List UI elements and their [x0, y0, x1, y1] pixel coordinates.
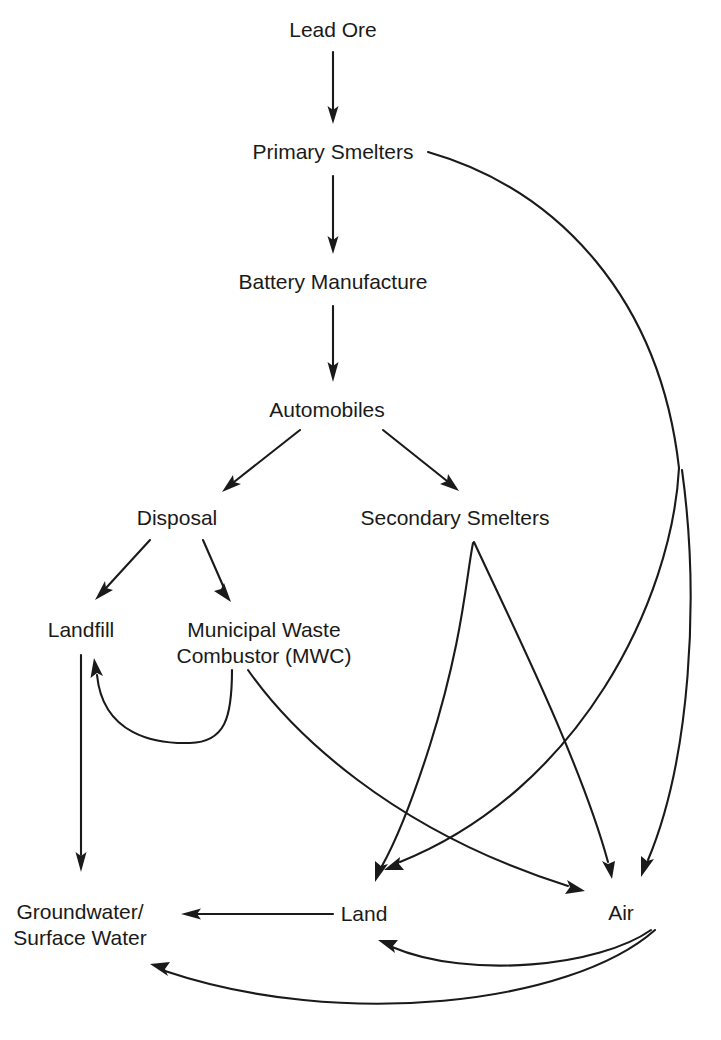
edge-air-to-groundwater: [150, 930, 655, 1004]
edge-battery-manufacture-to-automobiles: [328, 306, 339, 382]
edge-primary-smelters-to-battery-manufacture: [328, 176, 339, 254]
flow-diagram: Lead Ore Primary Smelters Battery Manufa…: [0, 0, 721, 1040]
node-lead-ore: Lead Ore: [289, 17, 377, 43]
node-groundwater-surface-water: Groundwater/ Surface Water: [13, 899, 146, 951]
node-battery-manufacture: Battery Manufacture: [238, 269, 427, 295]
edge-mwc-to-air: [248, 670, 585, 894]
edge-landfill-to-groundwater: [76, 655, 87, 872]
edge-secondary-smelters-to-air: [474, 542, 615, 879]
edge-mwc-to-landfill: [91, 658, 233, 743]
node-landfill: Landfill: [48, 617, 115, 643]
edge-disposal-to-mwc: [203, 540, 231, 602]
node-primary-smelters: Primary Smelters: [252, 139, 413, 165]
edge-land-to-groundwater: [181, 909, 333, 920]
edge-primary-smelters-to-air: [641, 470, 691, 877]
edge-lead-ore-to-primary-smelters: [328, 52, 339, 124]
node-secondary-smelters: Secondary Smelters: [360, 505, 549, 531]
node-automobiles: Automobiles: [269, 397, 385, 423]
node-mwc: Municipal Waste Combustor (MWC): [176, 617, 351, 669]
node-air: Air: [608, 900, 634, 926]
edge-automobiles-to-secondary-smelters: [383, 430, 459, 491]
node-disposal: Disposal: [137, 505, 218, 531]
edge-automobiles-to-disposal: [222, 430, 300, 492]
edge-secondary-smelters-to-land: [375, 543, 473, 882]
edge-disposal-to-landfill: [95, 540, 150, 600]
node-land: Land: [341, 901, 388, 927]
